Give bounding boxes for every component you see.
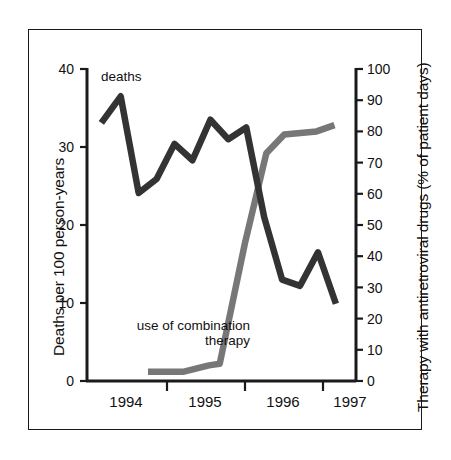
right-tick-label-100: 100 <box>367 61 390 77</box>
right-tick-label-70: 70 <box>367 155 383 171</box>
annotation-therapy: use of combination therapy <box>105 318 250 348</box>
right-tick-label-90: 90 <box>367 92 383 108</box>
right-tick-label-80: 80 <box>367 123 383 139</box>
right-tick-label-0: 0 <box>367 373 375 389</box>
left-tick-label-0: 0 <box>44 373 74 389</box>
right-tick-label-30: 30 <box>367 280 383 296</box>
chart-figure: 40 30 20 10 0 100 90 80 70 60 50 40 30 2… <box>0 0 451 460</box>
left-tick-label-40: 40 <box>44 61 74 77</box>
series-line-deaths <box>101 96 336 303</box>
right-tick-label-60: 60 <box>367 186 383 202</box>
right-tick-label-20: 20 <box>367 311 383 327</box>
x-axis-label-1997: 1997 <box>325 393 375 410</box>
x-axis-label-1995: 1995 <box>180 393 230 410</box>
left-axis-title: Deaths per 100 person-years <box>50 158 68 356</box>
x-axis-label-1996: 1996 <box>258 393 308 410</box>
x-axis-label-1994: 1994 <box>101 393 151 410</box>
right-tick-label-40: 40 <box>367 248 383 264</box>
right-tick-label-10: 10 <box>367 342 383 358</box>
left-tick-label-30: 30 <box>44 139 74 155</box>
right-tick-label-50: 50 <box>367 217 383 233</box>
right-axis-title: Therapy with antiretroviral drugs (% of … <box>414 62 432 412</box>
annotation-deaths: deaths <box>101 69 142 84</box>
